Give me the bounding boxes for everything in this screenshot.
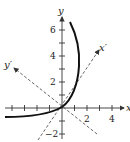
y-axis-label: y: [57, 5, 64, 16]
y-tick-label-4: 4: [50, 51, 56, 61]
coordinate-plane: x y x′ y′ 2 4 6 4 2 −2: [0, 0, 130, 142]
x-prime-label: x′: [99, 42, 108, 53]
y-tick-label-2: 2: [50, 77, 56, 87]
y-axis: [59, 17, 65, 139]
y-tick-label-neg2: −2: [45, 129, 58, 139]
parabola-curve: [5, 22, 79, 117]
y-tick-label-6: 6: [50, 25, 56, 35]
x-tick-label-4: 4: [109, 114, 115, 124]
x-tick-label-2: 2: [84, 114, 90, 124]
y-prime-label: y′: [3, 59, 13, 70]
x-axis-label: x: [126, 102, 130, 113]
rotated-x-prime-axis: [38, 50, 99, 140]
